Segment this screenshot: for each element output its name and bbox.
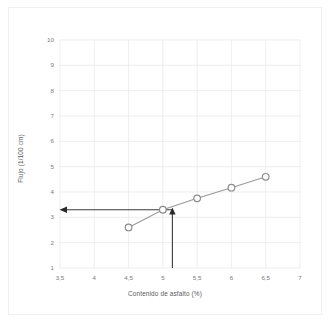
y-tick-label-6: 6 bbox=[32, 137, 54, 144]
x-tick-label-6-5: 6,5 bbox=[254, 274, 278, 281]
x-axis-title: Contenido de asfalto (%) bbox=[0, 290, 330, 297]
data-point bbox=[160, 206, 167, 213]
y-tick-label-2: 2 bbox=[32, 239, 54, 246]
y-tick-label-4: 4 bbox=[32, 188, 54, 195]
data-point bbox=[228, 184, 235, 191]
x-tick-label-5-5: 5,5 bbox=[185, 274, 209, 281]
y-tick-label-7: 7 bbox=[32, 112, 54, 119]
chart-figure: 10 9 8 7 6 5 4 3 2 1 3,5 4 4,5 5 5,5 6 6… bbox=[0, 0, 330, 323]
x-tick-label-3-5: 3,5 bbox=[48, 274, 72, 281]
x-tick-label-7: 7 bbox=[288, 274, 312, 281]
x-tick-label-4: 4 bbox=[82, 274, 106, 281]
data-point bbox=[125, 224, 132, 231]
plot-background bbox=[60, 40, 300, 268]
data-point bbox=[262, 174, 269, 181]
y-axis-title: Flujo (1/100 cm) bbox=[17, 109, 24, 209]
x-tick-label-6: 6 bbox=[219, 274, 243, 281]
x-tick-label-4-5: 4,5 bbox=[117, 274, 141, 281]
y-tick-label-1: 1 bbox=[32, 264, 54, 271]
data-point bbox=[194, 195, 201, 202]
y-tick-label-9: 9 bbox=[32, 61, 54, 68]
y-tick-label-10: 10 bbox=[32, 36, 54, 43]
x-tick-label-5: 5 bbox=[151, 274, 175, 281]
y-tick-label-5: 5 bbox=[32, 163, 54, 170]
y-tick-label-3: 3 bbox=[32, 213, 54, 220]
y-tick-label-8: 8 bbox=[32, 87, 54, 94]
